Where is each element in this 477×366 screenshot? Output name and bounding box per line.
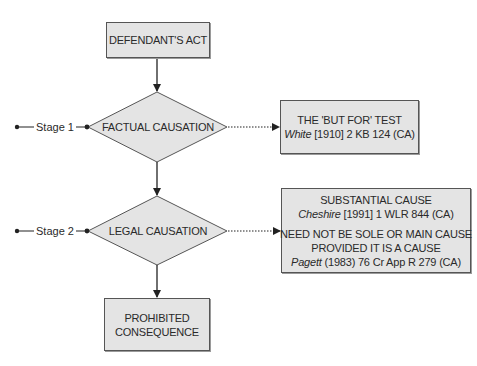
end-box-line-2: CONSEQUENCE [115,325,199,339]
result-2-citation: Cheshire [1991] 1 WLR 844 (CA) [298,207,453,221]
stage-2-start-dot [15,229,19,233]
start-box-label: DEFENDANT'S ACT [109,33,207,47]
start-box-defendants-act: DEFENDANT'S ACT [106,22,210,58]
stage-1-end-dot [85,125,90,130]
stage-2-label: Stage 2 [34,225,76,237]
stage-2-end-dot [85,229,90,234]
result-2-case-name: Cheshire [298,208,340,220]
result-2-case-name-2: Pagett [291,256,322,268]
result-2-rule-line-1: NEED NOT BE SOLE OR MAIN CAUSE [280,227,472,241]
result-box-but-for-test: THE 'BUT FOR' TEST White [1910] 2 KB 124… [280,100,419,154]
stage-1-start-dot [15,125,19,129]
causation-flowchart [0,0,477,366]
result-1-citation-text: [1910] 2 KB 124 (CA) [311,128,414,140]
result-1-citation: White [1910] 2 KB 124 (CA) [284,127,415,141]
result-1-case-name: White [284,128,311,140]
result-2-citation-2: Pagett (1983) 76 Cr App R 279 (CA) [291,255,461,269]
end-box-line-1: PROHIBITED [124,311,189,325]
result-2-title: SUBSTANTIAL CAUSE [320,193,432,207]
result-2-rule-line-2: PROVIDED IT IS A CAUSE [311,241,440,255]
stage-1-label: Stage 1 [34,121,76,133]
end-box-prohibited-consequence: PROHIBITED CONSEQUENCE [104,298,210,351]
decision-label-factual: FACTUAL CAUSATION [102,121,214,133]
result-2-citation-text: [1991] 1 WLR 844 (CA) [341,208,454,220]
result-2-citation-text-2: (1983) 76 Cr App R 279 (CA) [322,256,461,268]
result-box-substantial-cause: SUBSTANTIAL CAUSE Cheshire [1991] 1 WLR … [281,188,471,273]
result-1-title: THE 'BUT FOR' TEST [297,113,402,127]
decision-label-legal: LEGAL CAUSATION [109,225,207,237]
